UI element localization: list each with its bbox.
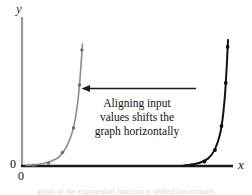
y-axis-label: y <box>16 2 22 15</box>
curve-shifted-left <box>26 44 82 165</box>
origin-label-x: 0 <box>18 170 24 182</box>
annotation-line-1: Aligning input <box>78 96 196 110</box>
curve-shifted-left-markers <box>32 48 84 167</box>
annotation-arrow <box>82 85 197 92</box>
exponential-shift-figure: y x 0 0 Aligning input values shifts the… <box>0 0 252 195</box>
annotation-line-3: graph horizontally <box>78 124 196 138</box>
bottom-caption: graph of the exponential function is shi… <box>0 188 252 195</box>
x-axis-label: x <box>238 158 244 171</box>
annotation-line-2: values shifts the <box>78 110 196 124</box>
origin-label-y: 0 <box>10 158 16 170</box>
annotation-text: Aligning input values shifts the graph h… <box>78 96 196 138</box>
